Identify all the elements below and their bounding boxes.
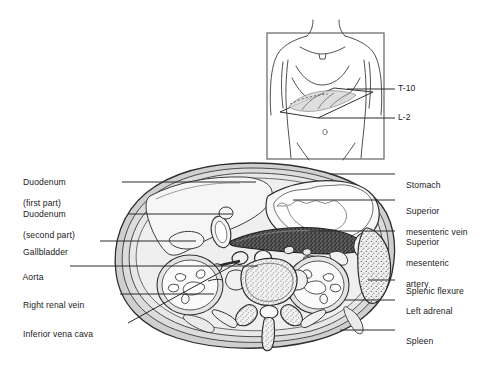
label-stomach: Stomach [401, 169, 441, 190]
label-spleen: Spleen [401, 325, 433, 346]
label-line-1: Duodenum [23, 177, 66, 187]
label-line-1: Inferior vena cava [23, 329, 93, 339]
label-line-1: Right renal vein [23, 300, 84, 310]
label-line-1: Duodenum [23, 209, 66, 219]
label-line-1: Superior [406, 206, 439, 216]
label-left-adrenal: Left adrenal [401, 295, 453, 316]
vertebral-body [241, 258, 297, 305]
inset-label-t10: T-10 [398, 83, 415, 94]
cross-section-group [115, 163, 394, 351]
label-line-1: Superior [406, 237, 439, 247]
label-line-1: Aorta [23, 272, 44, 282]
label-aorta: Aorta [18, 261, 44, 282]
inset-label-l2: L-2 [398, 112, 410, 123]
label-right-renal-vein: Right renal vein [18, 289, 84, 310]
figure-canvas: T-10 L-2 Duodenum (first part) Duodenum … [0, 0, 487, 376]
label-line-1: Left adrenal [406, 306, 453, 316]
label-gallbladder: Gallbladder [18, 236, 68, 257]
section-plane [280, 88, 373, 118]
label-duodenum-second-part: Duodenum (second part) [18, 198, 75, 240]
right-kidney [157, 255, 223, 315]
label-line-2: mesenteric [406, 258, 449, 268]
inset-group [267, 20, 395, 160]
torso-outline [270, 20, 382, 160]
label-line-1: Spleen [406, 336, 433, 346]
label-splenic-flexure: Splenic flexure [401, 275, 464, 296]
label-inferior-vena-cava: Inferior vena cava [18, 318, 93, 339]
label-line-1: Gallbladder [23, 247, 68, 257]
label-line-1: Stomach [406, 180, 441, 190]
